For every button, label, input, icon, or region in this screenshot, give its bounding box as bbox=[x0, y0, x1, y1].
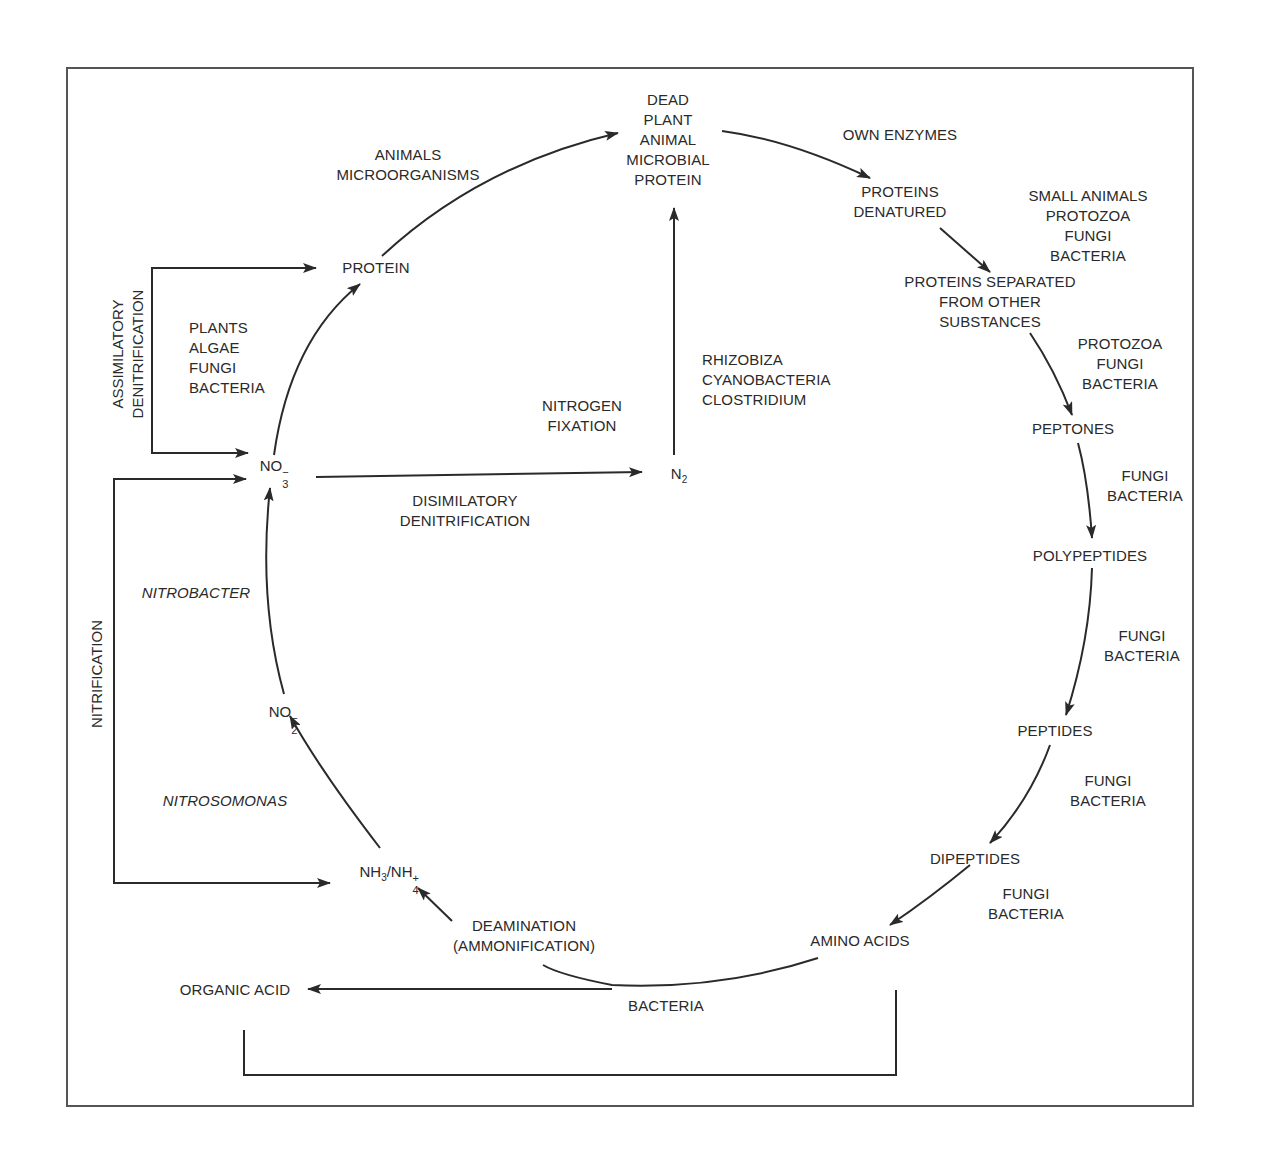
node-dinitrogen: N2 bbox=[671, 464, 687, 484]
node-organic-acid: ORGANIC ACID bbox=[180, 980, 290, 1000]
arrow-separated-to-peptones bbox=[1030, 333, 1072, 415]
process-assimilatory-denitrification: ASSIMILATORY DENITRIFICATION bbox=[108, 284, 148, 424]
process-nitrification: NITRIFICATION bbox=[87, 619, 107, 729]
arrow-peptides-to-dipeptides bbox=[990, 745, 1050, 843]
agent-small-animals: SMALL ANIMALS PROTOZOA FUNGI BACTERIA bbox=[1028, 186, 1147, 266]
agent-nitrosomonas: NITROSOMONAS bbox=[163, 791, 288, 811]
agent-fungi-bacteria-4: FUNGI BACTERIA bbox=[988, 884, 1064, 924]
arrow-denatured-to-separated bbox=[940, 228, 990, 272]
nitrogen-cycle-diagram: DEAD PLANT ANIMAL MICROBIAL PROTEIN PROT… bbox=[0, 0, 1278, 1162]
node-amino-acids: AMINO ACIDS bbox=[810, 931, 909, 951]
process-deamination: DEAMINATION (AMMONIFICATION) bbox=[453, 916, 595, 956]
curve-amino-to-bacteria bbox=[543, 958, 818, 986]
process-nitrogen-fixation: NITROGEN FIXATION bbox=[542, 396, 622, 436]
arrow-peptones-to-polypeptides bbox=[1078, 443, 1092, 538]
arrow-dipeptides-to-amino bbox=[890, 865, 970, 925]
node-protein: PROTEIN bbox=[342, 258, 409, 278]
agent-plants-algae: PLANTS ALGAE FUNGI BACTERIA bbox=[189, 318, 265, 398]
agent-fungi-bacteria-1: FUNGI BACTERIA bbox=[1107, 466, 1183, 506]
node-peptides: PEPTIDES bbox=[1018, 721, 1093, 741]
node-ammonia-ammonium: NH3/NH+4 bbox=[359, 862, 420, 882]
arrow-nh3-to-no2 bbox=[290, 716, 380, 848]
arrow-no2-to-no3 bbox=[266, 488, 284, 694]
node-proteins-denatured: PROTEINS DENATURED bbox=[853, 182, 946, 222]
node-proteins-separated: PROTEINS SEPARATED FROM OTHER SUBSTANCES bbox=[904, 272, 1075, 332]
arrow-no3-to-n2 bbox=[316, 472, 642, 477]
node-peptones: PEPTONES bbox=[1032, 419, 1114, 439]
nitrification-bracket bbox=[114, 479, 330, 883]
node-nitrate: NO−3 bbox=[260, 456, 291, 476]
agent-own-enzymes: OWN ENZYMES bbox=[843, 125, 957, 145]
node-dipeptides: DIPEPTIDES bbox=[930, 849, 1020, 869]
agent-nitrogen-fixers: RHIZOBIZA CYANOBACTERIA CLOSTRIDIUM bbox=[702, 350, 831, 410]
arrow-no3-to-protein bbox=[274, 284, 360, 455]
agent-protozoa-fungi-bacteria: PROTOZOA FUNGI BACTERIA bbox=[1078, 334, 1163, 394]
arrow-deamination-to-nh3 bbox=[418, 888, 452, 921]
organic-acid-return-bracket bbox=[244, 990, 896, 1075]
agent-animals-microorganisms: ANIMALS MICROORGANISMS bbox=[336, 145, 479, 185]
agent-nitrobacter: NITROBACTER bbox=[142, 583, 251, 603]
arrow-polypeptides-to-peptides bbox=[1066, 568, 1092, 715]
node-nitrite: NO−2 bbox=[269, 702, 300, 722]
agent-fungi-bacteria-2: FUNGI BACTERIA bbox=[1104, 626, 1180, 666]
process-disimilatory-denitrification: DISIMILATORY DENITRIFICATION bbox=[400, 491, 530, 531]
agent-fungi-bacteria-3: FUNGI BACTERIA bbox=[1070, 771, 1146, 811]
agent-bacteria: BACTERIA bbox=[628, 996, 704, 1016]
node-dead-protein: DEAD PLANT ANIMAL MICROBIAL PROTEIN bbox=[626, 90, 709, 190]
node-polypeptides: POLYPEPTIDES bbox=[1033, 546, 1147, 566]
